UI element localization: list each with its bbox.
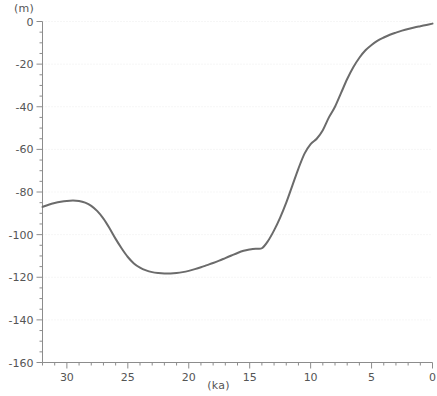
y-axis-tick-label: -20 <box>16 58 34 71</box>
series-line-relative-sea-level <box>43 24 433 274</box>
x-axis-tick-label: 30 <box>60 371 74 384</box>
y-axis-tick-label: -100 <box>9 229 34 242</box>
x-axis-group: 302520151050 <box>43 363 437 384</box>
y-axis-tick-label: -160 <box>9 357 34 370</box>
y-axis-tick-label: -80 <box>16 186 34 199</box>
series-group <box>43 24 433 274</box>
y-axis-tick-label: 0 <box>27 16 34 29</box>
x-axis-tick-label: 15 <box>243 371 257 384</box>
x-axis-tick-label: 0 <box>429 371 436 384</box>
y-axis-tick-label: -120 <box>9 271 34 284</box>
x-axis-tick-label: 20 <box>182 371 196 384</box>
y-axis-tick-label: -140 <box>9 314 34 327</box>
x-axis-tick-label: 25 <box>121 371 135 384</box>
plot-area: 0-20-40-60-80-100-120-140-160 3025201510… <box>0 0 437 396</box>
y-axis-tick-label: -40 <box>16 101 34 114</box>
sea-level-chart: (m) (ka) 0-20-40-60-80-100-120-140-160 3… <box>0 0 437 396</box>
x-axis-tick-label: 10 <box>304 371 318 384</box>
y-axis-tick-label: -60 <box>16 143 34 156</box>
gridlines-group <box>43 22 433 363</box>
y-axis-group: 0-20-40-60-80-100-120-140-160 <box>9 16 43 370</box>
x-axis-tick-label: 5 <box>368 371 375 384</box>
